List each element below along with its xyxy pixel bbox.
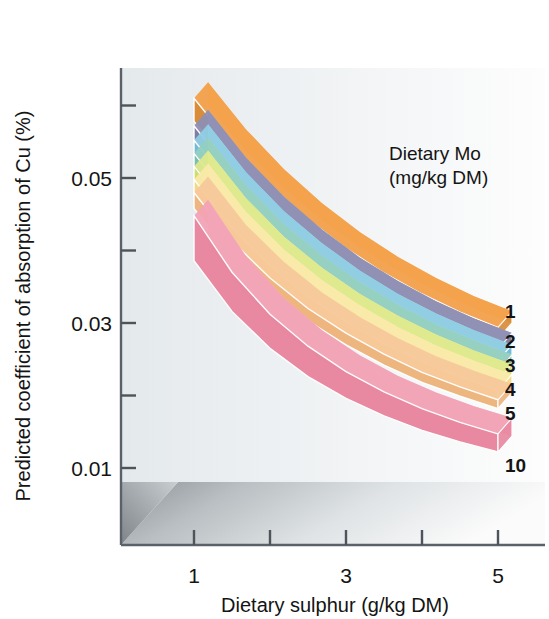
series-label-4: 4 (505, 379, 516, 400)
y-axis-title: Predicted coefficient of absorption of C… (12, 111, 34, 502)
legend-title-line1: Dietary Mo (389, 143, 481, 164)
series-label-1: 1 (505, 301, 516, 322)
series-label-10: 10 (505, 455, 526, 476)
series-label-3: 3 (505, 355, 516, 376)
y-tick-label-2: 0.01 (71, 457, 112, 480)
series-label-2: 2 (505, 331, 516, 352)
x-tick-label-0: 1 (188, 564, 200, 587)
chart-canvas: 0.05 0.03 0.01 1 3 5 Predicted coefficie… (0, 0, 549, 619)
y-tick-label-1: 0.03 (71, 312, 112, 335)
floor-plane (121, 482, 545, 545)
legend-title-line2: (mg/kg DM) (389, 167, 488, 188)
chart-figure: 0.05 0.03 0.01 1 3 5 Predicted coefficie… (0, 0, 549, 619)
x-tick-label-1: 3 (340, 564, 352, 587)
series-label-5: 5 (505, 403, 516, 424)
x-tick-label-2: 5 (492, 564, 504, 587)
x-axis-title: Dietary sulphur (g/kg DM) (221, 594, 449, 616)
y-tick-label-0: 0.05 (71, 167, 112, 190)
